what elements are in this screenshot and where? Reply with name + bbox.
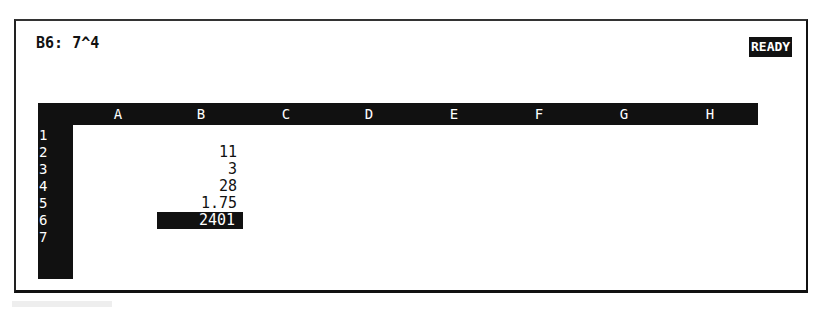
- cell-contents: 7^4: [72, 34, 99, 52]
- cell-b6-selected[interactable]: 2401: [157, 212, 243, 229]
- cell-address: B6:: [36, 34, 63, 52]
- column-header-h[interactable]: H: [700, 103, 720, 125]
- cell-b3[interactable]: 3: [157, 161, 237, 178]
- cell-b2[interactable]: 11: [157, 144, 237, 161]
- cell-b4[interactable]: 28: [157, 178, 237, 195]
- row-header-5[interactable]: 5: [39, 195, 47, 211]
- scan-artifact: [12, 301, 112, 307]
- row-header-2[interactable]: 2: [39, 144, 47, 160]
- column-header-d[interactable]: D: [359, 103, 379, 125]
- column-header-a[interactable]: A: [108, 103, 128, 125]
- row-header-4[interactable]: 4: [39, 178, 47, 194]
- column-header-g[interactable]: G: [614, 103, 634, 125]
- column-header-b[interactable]: B: [191, 103, 211, 125]
- control-panel-status: B6: 7^4: [36, 34, 99, 52]
- cell-b5[interactable]: 1.75: [157, 195, 237, 212]
- spreadsheet-window-frame: [14, 19, 808, 293]
- column-header-c[interactable]: C: [276, 103, 296, 125]
- row-header-7[interactable]: 7: [39, 229, 47, 245]
- row-header-6[interactable]: 6: [39, 212, 47, 228]
- row-header-1[interactable]: 1: [39, 127, 47, 143]
- column-header-e[interactable]: E: [444, 103, 464, 125]
- column-header-bar: [38, 103, 758, 125]
- mode-indicator: READY: [749, 37, 792, 57]
- row-header-3[interactable]: 3: [39, 161, 47, 177]
- column-header-f[interactable]: F: [529, 103, 549, 125]
